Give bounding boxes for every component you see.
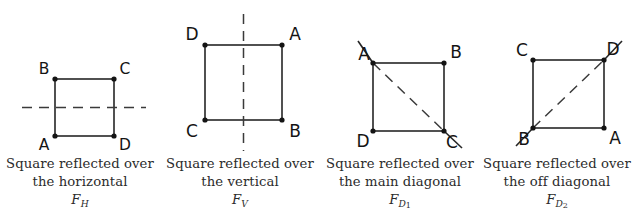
diagram-reflection-vertical: D A C B — [160, 0, 320, 155]
figure-reflection-off-diagonal: C D B A Square reflected over the off di… — [480, 0, 634, 222]
vertex-dot-top-left — [370, 60, 375, 65]
symbol-letter: F — [389, 192, 398, 207]
vertex-label-top-right: C — [120, 60, 131, 78]
vertex-label-bottom-left: D — [356, 131, 369, 151]
diagram-reflection-off-diagonal: C D B A — [480, 0, 634, 155]
vertex-dot-top-left — [202, 42, 207, 47]
symbol-letter: F — [71, 192, 80, 207]
vertex-dot-bottom-left — [52, 133, 57, 138]
vertex-label-bottom-left: A — [39, 136, 50, 154]
axis-of-reflection-off-diagonal — [533, 60, 604, 128]
symbol-letter: F — [232, 192, 241, 207]
vertex-dot-bottom-left — [370, 128, 375, 133]
vertex-label-top-right: D — [606, 39, 619, 59]
vertex-label-top-left: D — [185, 24, 198, 44]
symbol-subscript-number: 1 — [406, 201, 411, 210]
vertex-dot-top-right — [111, 76, 116, 81]
vertex-dot-top-right — [441, 60, 446, 65]
figure-caption: Square reflected over the horizontal FH — [0, 155, 160, 212]
caption-line-1: Square reflected over — [480, 155, 634, 173]
vertex-dot-bottom-right — [601, 125, 606, 130]
vertex-dot-top-left — [530, 57, 535, 62]
figure-reflection-main-diagonal: A B D C Square reflected over the main d… — [320, 0, 480, 222]
caption-symbol: FV — [160, 191, 320, 212]
symbol-letter: F — [546, 192, 555, 207]
vertex-label-top-left: A — [358, 44, 370, 64]
diagram-reflection-main-diagonal: A B D C — [320, 0, 480, 155]
figure-caption: Square reflected over the vertical FV — [160, 155, 320, 212]
symbol-subscript-number: 2 — [563, 201, 568, 210]
caption-line-2: the horizontal — [0, 173, 160, 191]
symbol-subscript: V — [241, 198, 248, 209]
symbol-subscript: D2 — [555, 198, 567, 209]
symbol-subscript: H — [81, 198, 89, 209]
reflection-figures-row: B C A D Square reflected over the horizo… — [0, 0, 634, 222]
vertex-label-bottom-right: D — [119, 136, 131, 154]
caption-symbol: FD2 — [480, 191, 634, 214]
vertex-label-top-left: B — [39, 60, 50, 78]
vertex-label-bottom-right: C — [446, 132, 458, 152]
vertex-dot-bottom-right — [111, 133, 116, 138]
caption-line-2: the main diagonal — [320, 173, 480, 191]
vertex-label-bottom-right: A — [609, 128, 621, 148]
caption-line-1: Square reflected over — [320, 155, 480, 173]
axis-of-reflection-main-diagonal — [373, 63, 444, 131]
figure-caption: Square reflected over the main diagonal … — [320, 155, 480, 214]
vertex-label-bottom-left: B — [518, 129, 530, 149]
vertex-label-top-right: A — [289, 24, 301, 44]
vertex-label-top-right: B — [450, 42, 462, 62]
vertex-dot-bottom-left — [530, 125, 535, 130]
vertex-label-bottom-left: C — [186, 121, 198, 141]
vertex-dot-bottom-left — [202, 117, 207, 122]
figure-caption: Square reflected over the off diagonal F… — [480, 155, 634, 214]
symbol-subscript: D1 — [398, 198, 410, 209]
vertex-dot-top-left — [52, 76, 57, 81]
figure-reflection-vertical: D A C B Square reflected over the vertic… — [160, 0, 320, 222]
caption-line-1: Square reflected over — [0, 155, 160, 173]
caption-line-2: the vertical — [160, 173, 320, 191]
vertex-label-top-left: C — [516, 40, 528, 60]
caption-line-2: the off diagonal — [480, 173, 634, 191]
figure-reflection-horizontal: B C A D Square reflected over the horizo… — [0, 0, 160, 222]
square-outline — [533, 60, 604, 128]
diagram-reflection-horizontal: B C A D — [0, 0, 160, 155]
caption-symbol: FH — [0, 191, 160, 212]
vertex-label-bottom-right: B — [289, 121, 301, 141]
vertex-dot-bottom-right — [279, 117, 284, 122]
vertex-dot-top-right — [279, 42, 284, 47]
caption-line-1: Square reflected over — [160, 155, 320, 173]
caption-symbol: FD1 — [320, 191, 480, 214]
